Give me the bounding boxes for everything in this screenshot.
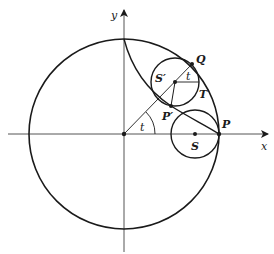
label-P-prime: P′ (161, 110, 173, 123)
x-axis-label: x (261, 140, 268, 153)
point-Q (190, 62, 194, 66)
y-axis-label: y (110, 9, 118, 22)
point-S-prime (173, 80, 177, 84)
point-S (193, 132, 197, 136)
hypocycloid-diagram: y x Q S′ t T P′ t P S (0, 0, 274, 254)
label-Q: Q (196, 53, 206, 66)
label-T: T (199, 88, 208, 101)
label-P: P (221, 118, 231, 131)
label-S: S (191, 140, 199, 153)
point-P (217, 132, 221, 136)
label-angle-origin: t (140, 121, 145, 134)
label-S-prime: S′ (155, 72, 166, 85)
point-origin (122, 132, 126, 136)
point-P-prime (169, 104, 173, 108)
angle-arc-origin (146, 112, 155, 134)
label-angle-S-prime: t (186, 70, 191, 83)
